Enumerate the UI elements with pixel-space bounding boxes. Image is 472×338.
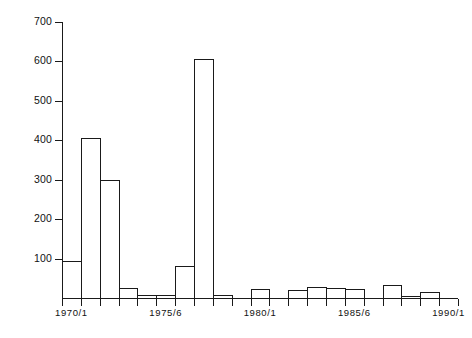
y-axis-tick-label: 300 — [0, 174, 52, 186]
bar — [62, 261, 82, 298]
x-axis-tick — [100, 299, 101, 306]
bar — [100, 180, 120, 298]
y-axis-tick-label: 200 — [0, 213, 52, 225]
x-axis-tick — [194, 299, 195, 306]
bar — [326, 288, 346, 298]
bar — [383, 285, 402, 298]
x-axis-tick — [156, 299, 157, 306]
x-axis-tick — [383, 299, 384, 306]
x-axis-tick — [175, 299, 176, 306]
x-axis-tick-label: 1985/6 — [338, 308, 371, 318]
bar — [307, 287, 327, 298]
y-axis-tick-label-text: 400 — [10, 134, 52, 145]
bar — [119, 288, 138, 298]
x-axis-tick-label: 1980/1 — [244, 308, 277, 318]
x-axis-tick — [213, 299, 214, 306]
y-axis-tick-label-text: 100 — [10, 253, 52, 264]
x-axis-tick-label: 1975/6 — [149, 308, 182, 318]
x-axis-tick-label: 1990/1 — [432, 308, 465, 318]
x-axis-tick — [251, 299, 252, 306]
bar — [194, 59, 214, 298]
x-axis-tick — [439, 299, 440, 306]
y-axis-tick-label: 400 — [0, 134, 52, 146]
x-axis-tick — [307, 299, 308, 306]
y-axis-tick-label: 700 — [0, 16, 52, 28]
bar — [137, 295, 157, 298]
x-axis-tick — [401, 299, 402, 306]
x-axis-tick — [137, 299, 138, 306]
x-axis-spine — [62, 298, 458, 299]
bar — [401, 296, 421, 298]
plot-area — [62, 22, 458, 298]
x-axis-tick — [62, 299, 63, 306]
bar — [420, 292, 440, 298]
x-axis-tick — [420, 299, 421, 306]
x-axis-tick — [288, 299, 289, 306]
x-axis-tick — [81, 299, 82, 306]
bar — [175, 266, 195, 298]
x-axis-tick — [345, 299, 346, 306]
bar — [251, 289, 270, 298]
y-axis-tick-label: 100 — [0, 253, 52, 265]
x-axis-tick-label: 1970/1 — [55, 308, 88, 318]
x-axis-tick — [364, 299, 365, 306]
x-axis-tick — [232, 299, 233, 306]
x-axis-tick — [119, 299, 120, 306]
y-axis-tick-label: 600 — [0, 55, 52, 67]
y-axis-tick-label-text: 200 — [10, 213, 52, 224]
y-axis-tick-label-text: 700 — [10, 16, 52, 27]
y-axis-tick-label-text: 600 — [10, 55, 52, 66]
bar — [288, 290, 308, 298]
bar-chart: 100200300400500600700 1970/11975/61980/1… — [0, 0, 472, 338]
x-axis-tick — [269, 299, 270, 306]
bar — [81, 138, 101, 298]
y-axis-tick-label-text: 300 — [10, 174, 52, 185]
x-axis-tick — [458, 299, 459, 306]
bar — [156, 295, 176, 298]
x-axis-tick — [326, 299, 327, 306]
y-axis-tick-label-text: 500 — [10, 95, 52, 106]
y-axis-tick-label: 500 — [0, 95, 52, 107]
bar — [345, 289, 365, 298]
bar — [213, 295, 233, 298]
